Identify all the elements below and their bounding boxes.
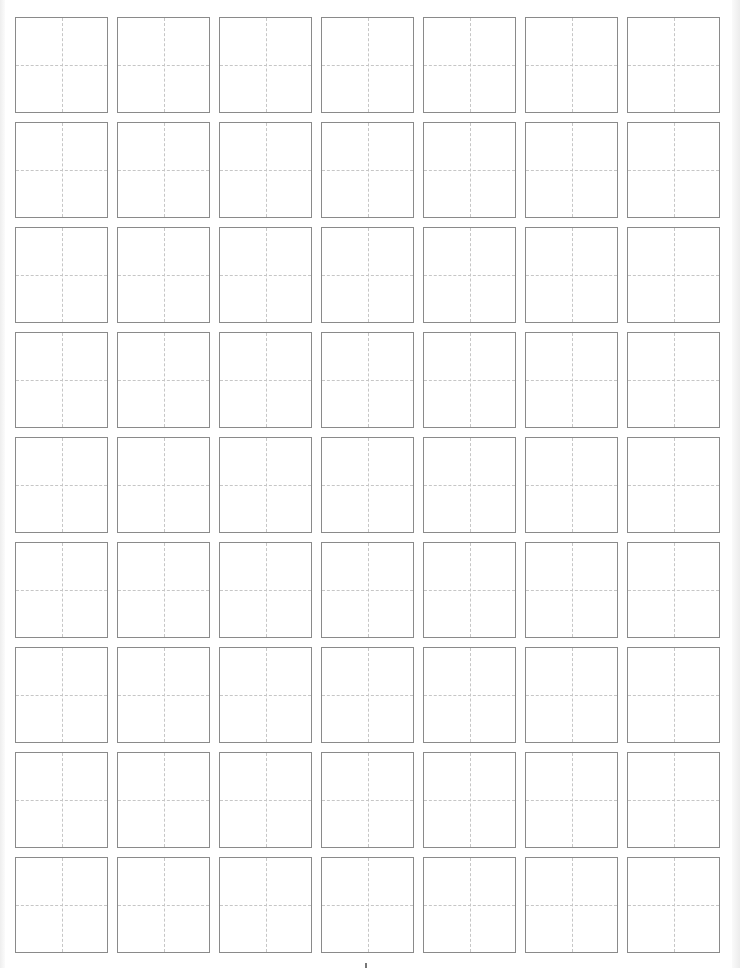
horizontal-guide-line (220, 170, 311, 171)
grid-cell-r9-c3 (219, 857, 312, 953)
grid-cell-r9-c6 (525, 857, 618, 953)
grid-cell-r6-c3 (219, 542, 312, 638)
horizontal-guide-line (628, 590, 719, 591)
horizontal-guide-line (322, 590, 413, 591)
grid-cell-r8-c1 (15, 752, 108, 848)
grid-cell-r2-c1 (15, 122, 108, 218)
horizontal-guide-line (16, 800, 107, 801)
horizontal-guide-line (118, 65, 209, 66)
horizontal-guide-line (526, 275, 617, 276)
horizontal-guide-line (322, 65, 413, 66)
grid-cell-r2-c4 (321, 122, 414, 218)
horizontal-guide-line (424, 170, 515, 171)
horizontal-guide-line (526, 65, 617, 66)
grid-cell-r5-c1 (15, 437, 108, 533)
horizontal-guide-line (526, 905, 617, 906)
page-left-edge (0, 0, 5, 968)
grid-cell-r8-c3 (219, 752, 312, 848)
grid-cell-r3-c4 (321, 227, 414, 323)
grid-cell-r2-c6 (525, 122, 618, 218)
grid-cell-r9-c7 (627, 857, 720, 953)
horizontal-guide-line (628, 800, 719, 801)
horizontal-guide-line (322, 905, 413, 906)
grid-cell-r9-c5 (423, 857, 516, 953)
grid-cell-r6-c5 (423, 542, 516, 638)
grid-cell-r5-c5 (423, 437, 516, 533)
grid-cell-r6-c6 (525, 542, 618, 638)
horizontal-guide-line (118, 275, 209, 276)
horizontal-guide-line (322, 380, 413, 381)
horizontal-guide-line (628, 905, 719, 906)
horizontal-guide-line (526, 485, 617, 486)
grid-cell-r3-c5 (423, 227, 516, 323)
grid-cell-r4-c3 (219, 332, 312, 428)
grid-cell-r9-c2 (117, 857, 210, 953)
grid-cell-r3-c6 (525, 227, 618, 323)
horizontal-guide-line (16, 485, 107, 486)
horizontal-guide-line (424, 380, 515, 381)
horizontal-guide-line (322, 275, 413, 276)
grid-cell-r9-c4 (321, 857, 414, 953)
horizontal-guide-line (16, 65, 107, 66)
horizontal-guide-line (16, 170, 107, 171)
horizontal-guide-line (220, 905, 311, 906)
grid-cell-r5-c6 (525, 437, 618, 533)
horizontal-guide-line (220, 485, 311, 486)
horizontal-guide-line (424, 590, 515, 591)
grid-cell-r7-c1 (15, 647, 108, 743)
grid-cell-r8-c4 (321, 752, 414, 848)
grid-cell-r1-c3 (219, 17, 312, 113)
page-number-mark (365, 963, 367, 968)
horizontal-guide-line (526, 590, 617, 591)
grid-cell-r1-c1 (15, 17, 108, 113)
horizontal-guide-line (118, 380, 209, 381)
horizontal-guide-line (628, 275, 719, 276)
horizontal-guide-line (424, 485, 515, 486)
grid-cell-r5-c3 (219, 437, 312, 533)
horizontal-guide-line (628, 695, 719, 696)
horizontal-guide-line (628, 65, 719, 66)
grid-cell-r7-c3 (219, 647, 312, 743)
horizontal-guide-line (118, 695, 209, 696)
horizontal-guide-line (118, 170, 209, 171)
grid-cell-r6-c2 (117, 542, 210, 638)
grid-cell-r6-c7 (627, 542, 720, 638)
grid-cell-r5-c7 (627, 437, 720, 533)
grid-cell-r1-c5 (423, 17, 516, 113)
grid-cell-r3-c2 (117, 227, 210, 323)
horizontal-guide-line (424, 65, 515, 66)
horizontal-guide-line (628, 380, 719, 381)
grid-cell-r7-c6 (525, 647, 618, 743)
grid-cell-r4-c5 (423, 332, 516, 428)
grid-cell-r8-c2 (117, 752, 210, 848)
grid-cell-r2-c5 (423, 122, 516, 218)
grid-cell-r5-c4 (321, 437, 414, 533)
horizontal-guide-line (424, 695, 515, 696)
horizontal-guide-line (220, 65, 311, 66)
grid-cell-r2-c3 (219, 122, 312, 218)
grid-cell-r3-c1 (15, 227, 108, 323)
horizontal-guide-line (322, 800, 413, 801)
horizontal-guide-line (526, 170, 617, 171)
horizontal-guide-line (118, 485, 209, 486)
horizontal-guide-line (322, 170, 413, 171)
page-right-edge (732, 0, 740, 968)
grid-cell-r7-c7 (627, 647, 720, 743)
grid-cell-r3-c3 (219, 227, 312, 323)
grid-cell-r9-c1 (15, 857, 108, 953)
grid-cell-r1-c2 (117, 17, 210, 113)
horizontal-guide-line (526, 380, 617, 381)
grid-cell-r1-c6 (525, 17, 618, 113)
grid-cell-r2-c7 (627, 122, 720, 218)
grid-cell-r1-c7 (627, 17, 720, 113)
horizontal-guide-line (118, 905, 209, 906)
horizontal-guide-line (16, 380, 107, 381)
horizontal-guide-line (424, 275, 515, 276)
grid-cell-r4-c7 (627, 332, 720, 428)
horizontal-guide-line (526, 695, 617, 696)
horizontal-guide-line (628, 170, 719, 171)
horizontal-guide-line (16, 275, 107, 276)
horizontal-guide-line (118, 800, 209, 801)
grid-cell-r2-c2 (117, 122, 210, 218)
grid-cell-r3-c7 (627, 227, 720, 323)
